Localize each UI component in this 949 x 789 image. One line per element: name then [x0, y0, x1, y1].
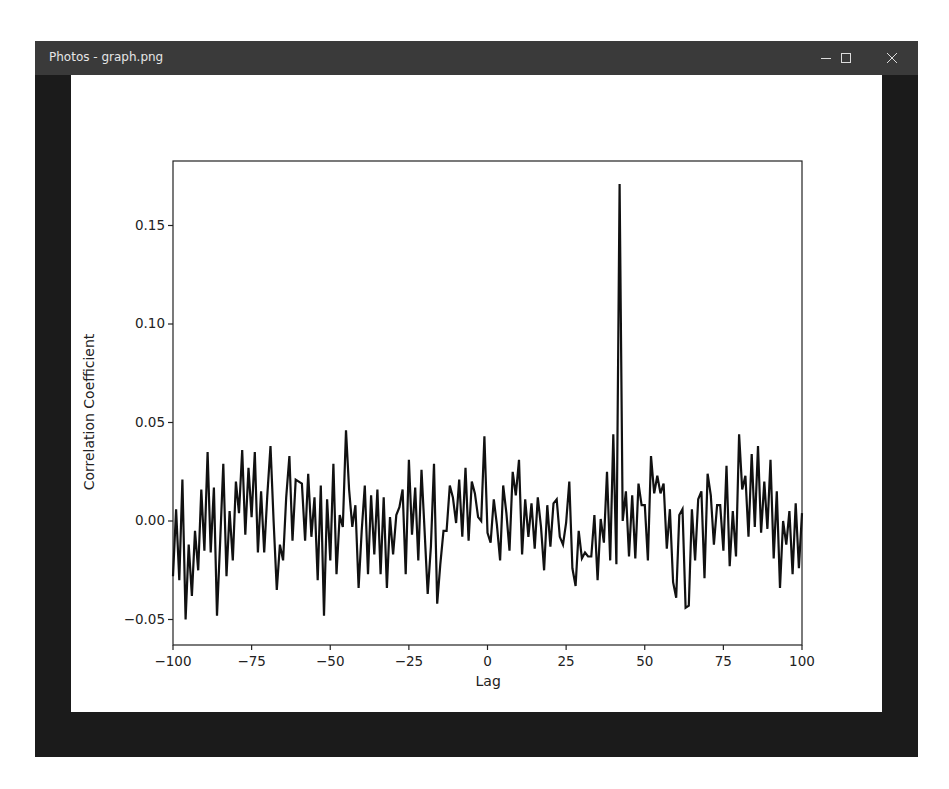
x-tick-label: −75 [222, 653, 282, 669]
x-tick-label: 75 [693, 653, 753, 669]
x-tick-label: 100 [772, 653, 832, 669]
maximize-icon [840, 52, 852, 64]
window-title: Photos - graph.png [49, 50, 163, 64]
x-tick-label: 50 [615, 653, 675, 669]
y-tick-label: 0.10 [95, 315, 165, 331]
y-tick-label: 0.15 [95, 217, 165, 233]
x-tick-label: 25 [536, 653, 596, 669]
x-tick-label: −50 [300, 653, 360, 669]
y-axis-label: Correlation Coefficient [81, 312, 97, 512]
plot-area-frame [173, 161, 802, 645]
maximize-button[interactable] [823, 41, 869, 75]
close-icon [886, 52, 898, 64]
x-tick-label: −100 [143, 653, 203, 669]
x-tick-label: 0 [458, 653, 518, 669]
x-tick-label: −25 [379, 653, 439, 669]
line-chart [71, 75, 882, 712]
y-tick-label: −0.05 [95, 611, 165, 627]
y-tick-label: 0.05 [95, 414, 165, 430]
title-bar[interactable]: Photos - graph.png [35, 41, 918, 75]
image-canvas: Lag Correlation Coefficient −0.050.000.0… [71, 75, 882, 712]
photos-window: Photos - graph.png Lag Correlation Coeff… [35, 41, 918, 757]
x-axis-label: Lag [476, 673, 501, 689]
y-tick-label: 0.00 [95, 512, 165, 528]
close-button[interactable] [869, 41, 915, 75]
